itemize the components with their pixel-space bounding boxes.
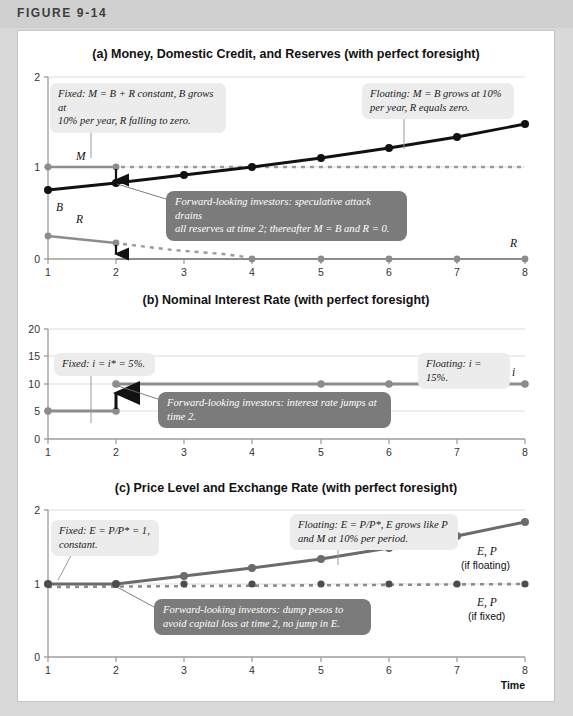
data-point [317, 555, 325, 563]
panel-c-label-floating-2: (if floating) [461, 559, 510, 571]
panel-c-callout-dump-text: Forward-looking investors: dump pesos to… [163, 604, 343, 629]
panel-c-xtick-8: 8 [522, 664, 528, 676]
panel-c-xtick-3: 3 [181, 664, 187, 676]
figure-number-label: FIGURE 9-14 [17, 6, 107, 20]
panel-c-ytick-0: 0 [34, 651, 40, 663]
panel-c-label-fixed-2: (if fixed) [468, 610, 505, 622]
panel-c-xtick-6: 6 [386, 664, 392, 676]
panel-c-callout-floating-text: Floating: E = P/P*, E grows like P and M… [298, 519, 448, 544]
data-point [180, 580, 187, 587]
panel-c-xtick-2: 2 [113, 664, 119, 676]
callout-leader [117, 587, 154, 607]
panel-c-callout-fixed-text: Fixed: E = P/P* = 1, constant. [59, 525, 150, 550]
figure-card: (a) Money, Domestic Credit, and Reserves… [17, 30, 555, 702]
data-point [521, 518, 529, 526]
data-point [521, 580, 528, 587]
data-point [248, 564, 256, 572]
panel-c-callout-floating: Floating: E = P/P*, E grows like P and M… [290, 514, 458, 550]
data-point [317, 580, 324, 587]
panel-c-callout-fixed: Fixed: E = P/P* = 1, constant. [51, 520, 159, 556]
data-point [248, 580, 255, 587]
panel-c-xtick-1: 1 [45, 664, 51, 676]
panel-c-label-floating-1: E, P [476, 545, 497, 558]
panel-c-ytick-2: 2 [34, 504, 40, 516]
data-point [112, 580, 120, 588]
panel-c-xtick-7: 7 [454, 664, 460, 676]
data-point [44, 580, 52, 588]
panel-c-ytick-1: 1 [34, 578, 40, 590]
data-point [385, 580, 392, 587]
panel-c-label-fixed-1: E, P [476, 596, 497, 609]
panel-c-callout-dump: Forward-looking investors: dump pesos to… [154, 599, 371, 635]
panel-c-xtick-5: 5 [318, 664, 324, 676]
time-axis-label: Time [501, 679, 525, 691]
figure-container: FIGURE 9-14 (a) Money, Domestic Credit, … [0, 0, 573, 716]
panel-c-xtick-4: 4 [249, 664, 255, 676]
figure-header-bar: FIGURE 9-14 [0, 0, 573, 28]
data-point [453, 580, 460, 587]
data-point [180, 572, 188, 580]
